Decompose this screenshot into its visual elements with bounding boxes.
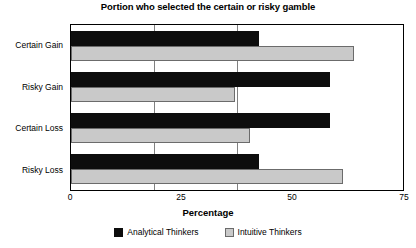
bar-analytical-certain-loss	[71, 113, 330, 128]
legend-swatch-intuitive-icon	[225, 228, 234, 237]
bar-intuitive-risky-gain	[71, 87, 235, 102]
bar-intuitive-risky-loss	[71, 169, 343, 184]
x-axis-ticks: 0 25 50 75	[0, 192, 416, 204]
y-axis-label-1: Risky Gain	[0, 71, 66, 103]
x-tick-3: 75	[399, 192, 408, 202]
bar-rows	[71, 25, 403, 190]
bar-intuitive-certain-gain	[71, 46, 354, 61]
bar-group-risky-loss	[71, 153, 403, 185]
y-axis-label-0: Certain Gain	[0, 29, 66, 61]
plot-area	[70, 24, 404, 191]
bar-analytical-risky-gain	[71, 72, 330, 87]
bar-analytical-risky-loss	[71, 154, 259, 169]
y-axis-category-labels: Certain Gain Risky Gain Certain Loss Ris…	[0, 24, 66, 191]
bar-group-certain-gain	[71, 30, 403, 62]
x-tick-1: 25	[176, 192, 185, 202]
bar-chart: Portion who selected the certain or risk…	[0, 0, 416, 248]
bar-analytical-certain-gain	[71, 31, 259, 46]
x-tick-0: 0	[68, 192, 73, 202]
y-axis-label-2: Certain Loss	[0, 112, 66, 144]
bar-intuitive-certain-loss	[71, 128, 250, 143]
x-axis-title: Percentage	[0, 207, 416, 218]
legend-label-analytical: Analytical Thinkers	[127, 227, 198, 237]
y-axis-label-3: Risky Loss	[0, 154, 66, 186]
legend-swatch-analytical-icon	[114, 228, 123, 237]
bar-group-risky-gain	[71, 71, 403, 103]
chart-legend: Analytical Thinkers Intuitive Thinkers	[0, 227, 416, 237]
legend-item-analytical: Analytical Thinkers	[114, 227, 198, 237]
x-tick-2: 50	[287, 192, 296, 202]
legend-label-intuitive: Intuitive Thinkers	[238, 227, 302, 237]
legend-item-intuitive: Intuitive Thinkers	[225, 227, 302, 237]
chart-title: Portion who selected the certain or risk…	[0, 1, 416, 12]
bar-group-certain-loss	[71, 112, 403, 144]
